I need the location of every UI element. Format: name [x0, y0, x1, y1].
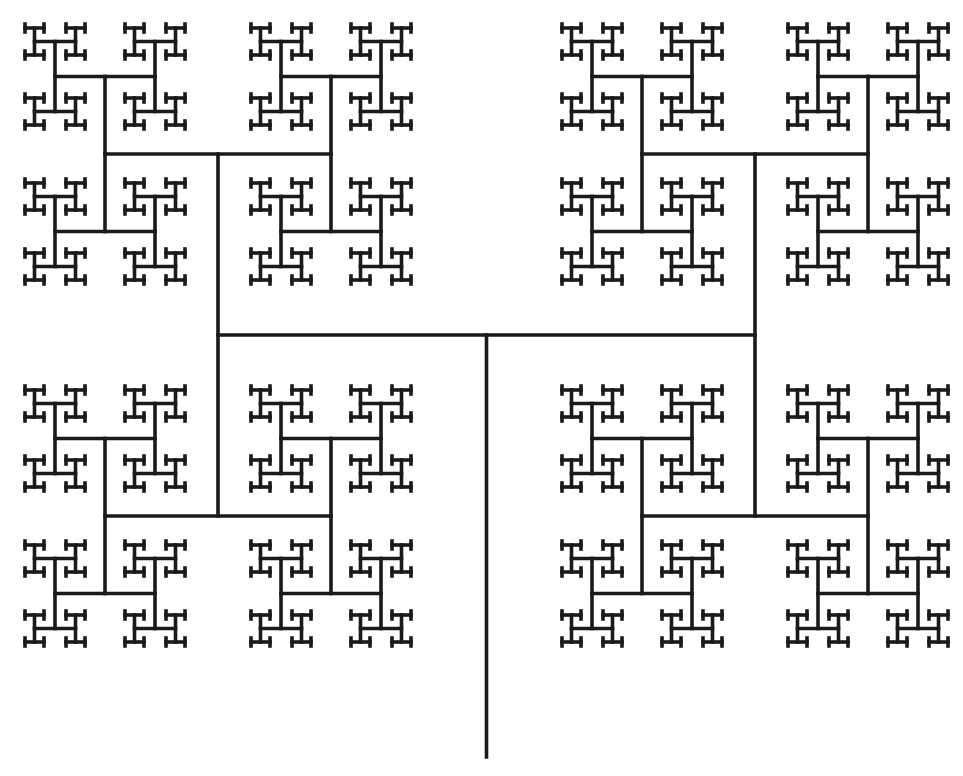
h-tree-fractal-diagram	[0, 0, 963, 776]
